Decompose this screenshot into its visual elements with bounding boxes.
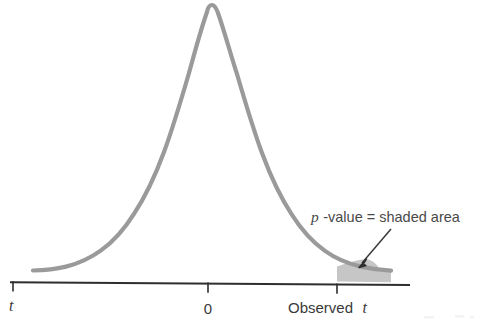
- axis-label-observed-t: Observed t: [288, 299, 368, 316]
- observed-label-italic-t: t: [363, 299, 368, 316]
- scan-artifacts: [424, 315, 474, 318]
- t-distribution-figure: t 0 Observed t p -value = shaded area: [0, 0, 494, 324]
- p-value-annotation: p -value = shaded area: [310, 208, 461, 225]
- annotation-italic-p: p: [310, 208, 319, 225]
- axis-label-zero: 0: [204, 300, 212, 317]
- x-axis-line: [10, 282, 410, 285]
- axis-label-t: t: [9, 297, 14, 314]
- bell-curve: [33, 5, 391, 271]
- observed-label-prefix: Observed: [288, 299, 353, 316]
- annotation-arrow: [359, 229, 391, 268]
- annotation-rest-text: -value = shaded area: [323, 209, 461, 225]
